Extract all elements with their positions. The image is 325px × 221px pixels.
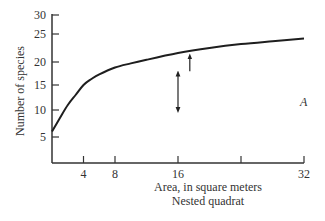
x-tick-label: 4 <box>81 167 87 181</box>
y-tick-label: 15 <box>34 78 46 92</box>
x-axis-title: Area, in square meters <box>154 180 262 194</box>
species-area-chart: 51015202530481632 Number of species Area… <box>0 0 325 221</box>
y-tick-label: 25 <box>34 27 46 41</box>
y-tick-label: 10 <box>34 103 46 117</box>
x-tick-label: 16 <box>172 167 184 181</box>
panel-label: A <box>299 95 308 109</box>
annotations <box>178 56 190 110</box>
x-tick-label: 32 <box>298 167 310 181</box>
y-tick-label: 30 <box>34 8 46 22</box>
y-tick-label: 20 <box>34 55 46 69</box>
x-tick-label: 8 <box>112 167 118 181</box>
y-axis-title: Number of species <box>13 46 27 136</box>
x-axis-subtitle: Nested quadrat <box>172 194 245 208</box>
y-tick-label: 5 <box>40 130 46 144</box>
